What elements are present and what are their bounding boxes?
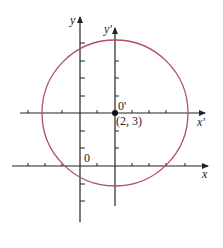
origin-label: 0 bbox=[84, 151, 90, 165]
x-prime-axis-label: x' bbox=[196, 115, 205, 129]
coordinate-diagram: y y' x' x 0' (2, 3) 0 bbox=[0, 0, 223, 248]
x-axis-label: x bbox=[201, 167, 208, 181]
y-prime-axis-label: y' bbox=[103, 22, 112, 36]
new-origin-label: 0' bbox=[118, 99, 126, 113]
x-axis bbox=[12, 163, 208, 166]
y-axis-label: y bbox=[69, 13, 76, 27]
new-origin-coords: (2, 3) bbox=[116, 114, 142, 128]
